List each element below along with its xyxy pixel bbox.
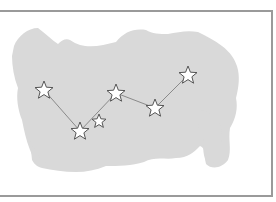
brush-blob	[12, 28, 239, 172]
constellation-illustration	[0, 0, 276, 202]
